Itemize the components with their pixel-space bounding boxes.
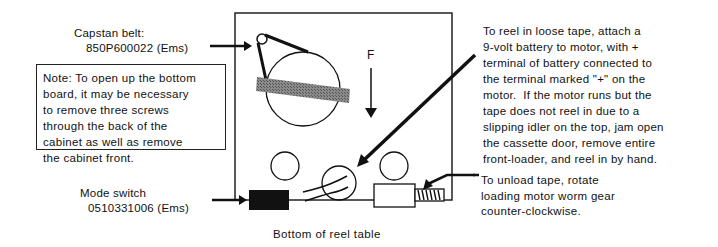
takeup-reel-spindle [380, 152, 408, 180]
reel-in-line: slipping idler on the top, jam open [483, 121, 664, 133]
reel-in-pointer [363, 55, 475, 161]
note-line: board, it may be necessary [43, 88, 189, 100]
mode-switch-label: Mode switch [80, 186, 146, 202]
reel-in-line: tape does not reel in due to a [483, 105, 639, 117]
reel-in-line: terminal of battery connected to [483, 57, 652, 69]
arrow-down-icon [365, 108, 377, 118]
reel-in-line: To reel in loose tape, attach a [483, 25, 641, 37]
direction-label: F [367, 48, 375, 64]
mode-switch [249, 190, 289, 210]
motor-wire-2 [305, 187, 348, 201]
hatched-plate [256, 77, 350, 103]
reel-in-instructions: To reel in loose tape, attach a 9-volt b… [483, 23, 664, 167]
reel-in-line: 9-volt battery to motor, with + [483, 41, 639, 53]
capstan-belt-part-number: 850P600022 (Ems) [86, 41, 188, 57]
capstan-belt-label: Capstan belt: [74, 26, 144, 42]
unload-line: counter-clockwise. [481, 205, 581, 217]
note-line: cabinet as well as remove [43, 136, 183, 148]
reel-in-line: the terminal marked "+" on the [483, 73, 645, 85]
reel-in-line: front-loader, and reel in by hand. [483, 153, 657, 165]
motor-wire-1 [303, 176, 347, 192]
capstan-belt-upper [265, 35, 308, 52]
note-line: Note: To open up the bottom [43, 72, 196, 84]
mode-switch-part-number: 0510331006 (Ems) [88, 201, 189, 217]
reel-in-line: motor. If the motor runs but the [483, 89, 652, 101]
note-text: Note: To open up the bottom board, it ma… [43, 70, 196, 166]
note-line: to remove three screws [43, 104, 169, 116]
unload-instructions: To unload tape, rotate loading motor wor… [481, 173, 615, 220]
capstan-belt-lower [258, 43, 266, 80]
note-line: the cabinet front. [43, 152, 134, 164]
unload-line: loading motor worm gear [481, 190, 615, 202]
arrowhead-icon [244, 41, 252, 51]
figure-caption: Bottom of reel table [273, 227, 381, 243]
reel-motor [322, 166, 356, 200]
supply-reel-spindle [271, 152, 299, 180]
loading-motor [374, 184, 415, 207]
reel-in-line: the cassette door, remove entire [483, 137, 655, 149]
arrowhead-icon [239, 195, 247, 205]
unload-line: To unload tape, rotate [481, 174, 599, 186]
note-line: through the back of the [43, 120, 168, 132]
